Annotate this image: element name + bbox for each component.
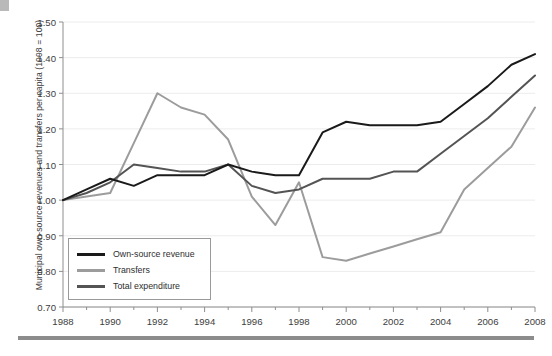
y-tick-label: 1.30 [37,88,56,99]
x-tick-label: 1988 [52,316,73,327]
x-tick-label: 1996 [241,316,262,327]
y-tick-label: 0.70 [37,302,56,313]
x-tick-label: 2000 [336,316,357,327]
x-tick-label: 1992 [147,316,168,327]
corner-mark [0,0,9,11]
y-tick-label: 0.80 [37,266,56,277]
x-tick-label: 2002 [383,316,404,327]
y-tick-label: 1.10 [37,159,56,170]
y-tick-label: 0.90 [37,230,56,241]
x-tick-label: 1990 [100,316,121,327]
y-tick-label: 1.40 [37,52,56,63]
x-tick-label: 2008 [524,316,545,327]
legend-label: Total expenditure [113,281,180,291]
legend-item: Total expenditure [77,278,210,294]
bottom-divider-rule [18,336,534,340]
chart-legend: Own-source revenueTransfersTotal expendi… [68,238,211,300]
y-tick-label: 1.00 [37,195,56,206]
x-tick-label: 1998 [288,316,309,327]
y-tick-label: 1.50 [37,17,56,28]
series-line-own-source-revenue [63,54,535,200]
legend-label: Own-source revenue [113,249,195,259]
y-tick-label: 1.20 [37,123,56,134]
x-tick-label: 2006 [477,316,498,327]
x-tick-label: 1994 [194,316,215,327]
plot-area: 1.501.401.301.201.101.000.900.800.70 198… [63,22,535,307]
chart-figure: Municipal own-source revenues and transf… [0,0,552,356]
legend-label: Transfers [113,265,150,275]
legend-swatch-icon [77,269,105,272]
legend-item: Transfers [77,262,210,278]
legend-item: Own-source revenue [77,246,210,262]
legend-swatch-icon [77,285,105,288]
x-tick-label: 2004 [430,316,451,327]
legend-swatch-icon [77,253,105,256]
